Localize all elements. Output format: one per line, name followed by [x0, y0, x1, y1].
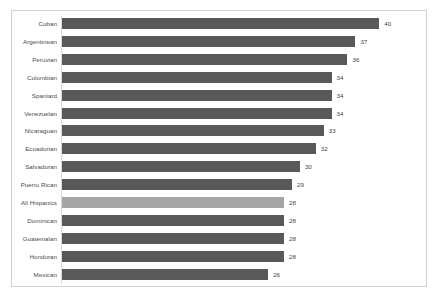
bar-category-label: Mexican: [12, 266, 57, 284]
bar-value-label: 34: [337, 90, 344, 101]
bar-track: 37: [62, 33, 426, 51]
bar-row: Spaniard34: [12, 87, 426, 105]
bar-row: All Hispanics28: [12, 194, 426, 212]
bar-row: Salvadoran30: [12, 158, 426, 176]
bar-value-label: 32: [321, 143, 328, 154]
bar-row: Colombian34: [12, 69, 426, 87]
bar[interactable]: [62, 179, 292, 190]
bar-track: 28: [62, 230, 426, 248]
bar-row: Honduran28: [12, 248, 426, 266]
bar-category-label: Venezuelan: [12, 105, 57, 123]
bar-track: 30: [62, 158, 426, 176]
bar-category-label: Salvadoran: [12, 158, 57, 176]
bar[interactable]: [62, 233, 284, 244]
bar-value-label: 26: [273, 269, 280, 280]
bar-value-label: 36: [352, 54, 359, 65]
bar-row: Venezuelan34: [12, 105, 426, 123]
bar-value-label: 40: [384, 18, 391, 29]
chart-frame: Cuban40Argentinean37Peruvian36Colombian3…: [11, 10, 427, 287]
bar[interactable]: [62, 36, 355, 47]
bar-highlighted[interactable]: [62, 197, 284, 208]
bar[interactable]: [62, 18, 379, 29]
bar-category-label: Dominican: [12, 212, 57, 230]
bar[interactable]: [62, 108, 332, 119]
bar-track: 28: [62, 248, 426, 266]
bar-category-label: Nicaraguan: [12, 122, 57, 140]
bar-row: Mexican26: [12, 266, 426, 284]
bar-row: Nicaraguan33: [12, 122, 426, 140]
bar[interactable]: [62, 125, 324, 136]
bar[interactable]: [62, 161, 300, 172]
bar-row: Dominican28: [12, 212, 426, 230]
bar-track: 36: [62, 51, 426, 69]
bar-value-label: 29: [297, 179, 304, 190]
bar-category-label: Puerto Rican: [12, 176, 57, 194]
bar-value-label: 28: [289, 251, 296, 262]
bar-row: Argentinean37: [12, 33, 426, 51]
bar-value-label: 30: [305, 161, 312, 172]
bar-value-label: 33: [329, 125, 336, 136]
bar-value-label: 28: [289, 215, 296, 226]
bar-track: 28: [62, 194, 426, 212]
bar[interactable]: [62, 143, 316, 154]
bar-track: 32: [62, 140, 426, 158]
bar-track: 40: [62, 15, 426, 33]
bar-value-label: 34: [337, 108, 344, 119]
bar-track: 34: [62, 69, 426, 87]
bar-value-label: 28: [289, 197, 296, 208]
bar-category-label: Spaniard: [12, 87, 57, 105]
bar-track: 29: [62, 176, 426, 194]
bar-category-label: All Hispanics: [12, 194, 57, 212]
bar-category-label: Colombian: [12, 69, 57, 87]
bar-track: 26: [62, 266, 426, 284]
bar-track: 28: [62, 212, 426, 230]
bar-track: 34: [62, 105, 426, 123]
bar[interactable]: [62, 54, 347, 65]
bar[interactable]: [62, 251, 284, 262]
bar-category-label: Argentinean: [12, 33, 57, 51]
bar-track: 33: [62, 122, 426, 140]
bar[interactable]: [62, 90, 332, 101]
bar-row: Ecuadorian32: [12, 140, 426, 158]
bar-row: Guatemalan28: [12, 230, 426, 248]
bar-track: 34: [62, 87, 426, 105]
bar-row: Peruvian36: [12, 51, 426, 69]
bar-category-label: Honduran: [12, 248, 57, 266]
bar-value-label: 28: [289, 233, 296, 244]
bar[interactable]: [62, 269, 268, 280]
bar[interactable]: [62, 215, 284, 226]
plot-area: Cuban40Argentinean37Peruvian36Colombian3…: [12, 11, 426, 286]
bar-category-label: Guatemalan: [12, 230, 57, 248]
bar-row: Cuban40: [12, 15, 426, 33]
bar-row: Puerto Rican29: [12, 176, 426, 194]
bar-value-label: 37: [360, 36, 367, 47]
bar-category-label: Peruvian: [12, 51, 57, 69]
bar[interactable]: [62, 72, 332, 83]
bar-category-label: Cuban: [12, 15, 57, 33]
bar-category-label: Ecuadorian: [12, 140, 57, 158]
bar-value-label: 34: [337, 72, 344, 83]
